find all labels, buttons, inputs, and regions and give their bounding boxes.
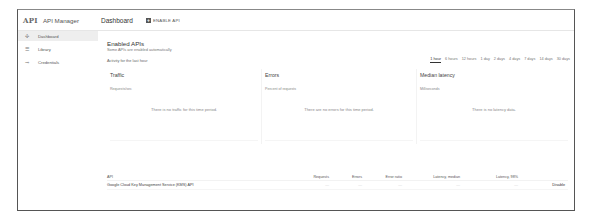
traffic-panel: Traffic Requests/sec There is no traffic… — [107, 69, 262, 144]
dashboard-icon: ✣ — [23, 33, 31, 39]
tab-7-days[interactable]: 7 days — [524, 57, 535, 63]
sidebar: ✣ Dashboard ☰ Library ⊸ Credentials — [18, 31, 98, 210]
column-api[interactable]: API — [107, 175, 292, 179]
main-content: Enabled APIs Some APIs are enabled autom… — [102, 31, 574, 210]
errors-value: — — [335, 183, 370, 187]
api-logo-icon: API — [23, 16, 38, 25]
section-title: Enabled APIs — [107, 40, 144, 47]
tab-6-hours[interactable]: 6 hours — [445, 57, 458, 63]
latency-98-value: — — [470, 183, 530, 187]
credentials-key-icon: ⊸ — [23, 59, 31, 65]
tab-1-hour[interactable]: 1 hour — [430, 57, 441, 63]
column-latency-median[interactable]: Latency, median — [410, 175, 470, 179]
panel-title: Errors — [265, 72, 279, 78]
tab-12-hours[interactable]: 12 hours — [462, 57, 477, 63]
tab-30-days[interactable]: 30 days — [557, 57, 570, 63]
sidebar-item-library[interactable]: ☰ Library — [18, 44, 98, 54]
disable-button[interactable]: Disable — [530, 183, 568, 187]
plus-icon: + — [146, 18, 151, 23]
page-title: Dashboard — [101, 17, 146, 24]
table-row: Google Cloud Key Management Service (KMS… — [107, 181, 568, 190]
browser-frame: API API Manager Dashboard + ENABLE API ✣… — [17, 9, 575, 211]
latency-panel: Median latency Milliseconds There is no … — [417, 69, 571, 144]
column-error-ratio[interactable]: Error ratio — [370, 175, 410, 179]
tab-14-days[interactable]: 14 days — [539, 57, 552, 63]
top-header: API API Manager Dashboard + ENABLE API — [18, 10, 574, 31]
panel-unit: Milliseconds — [420, 87, 440, 91]
panel-title: Median latency — [420, 72, 455, 78]
panel-unit: Percent of requests — [265, 87, 296, 91]
errors-panel: Errors Percent of requests There are no … — [262, 69, 417, 144]
enable-api-button[interactable]: + ENABLE API — [146, 18, 180, 23]
panel-empty-message: There is no latency data. — [417, 107, 571, 112]
column-requests[interactable]: Requests — [292, 175, 335, 179]
activity-label: Activity for the last hour — [107, 58, 147, 63]
panel-unit: Requests/sec — [110, 87, 132, 91]
sidebar-item-dashboard[interactable]: ✣ Dashboard — [18, 31, 98, 41]
panel-empty-message: There are no errors for this time period… — [262, 107, 416, 112]
app-name: API Manager — [43, 17, 79, 24]
enable-api-label: ENABLE API — [153, 18, 180, 23]
time-range-tabs: 1 hour 6 hours 12 hours 1 day 2 days 4 d… — [430, 57, 570, 63]
sidebar-item-credentials[interactable]: ⊸ Credentials — [18, 57, 98, 67]
sidebar-item-label: Library — [38, 47, 51, 52]
brand[interactable]: API API Manager — [18, 10, 98, 30]
sidebar-item-label: Credentials — [38, 60, 59, 65]
chart-panels: Traffic Requests/sec There is no traffic… — [107, 69, 571, 144]
chart-axis — [110, 140, 258, 141]
latency-median-value: — — [410, 183, 470, 187]
sidebar-item-label: Dashboard — [38, 34, 59, 39]
column-latency-98[interactable]: Latency, 98% — [470, 175, 530, 179]
panel-title: Traffic — [110, 72, 124, 78]
tab-1-day[interactable]: 1 day — [481, 57, 490, 63]
library-icon: ☰ — [23, 46, 31, 52]
tab-2-days[interactable]: 2 days — [494, 57, 505, 63]
panel-empty-message: There is no traffic for this time period… — [107, 107, 261, 112]
requests-value: — — [292, 183, 335, 187]
error-ratio-value: — — [370, 183, 410, 187]
chart-axis — [265, 140, 413, 141]
section-subtitle: Some APIs are enabled automatically — [107, 47, 172, 52]
tab-4-days[interactable]: 4 days — [509, 57, 520, 63]
column-errors[interactable]: Errors — [335, 175, 370, 179]
chart-axis — [420, 140, 568, 141]
api-name-link[interactable]: Google Cloud Key Management Service (KMS… — [107, 183, 292, 187]
apis-table: API Requests Errors Error ratio Latency,… — [107, 173, 568, 190]
table-header: API Requests Errors Error ratio Latency,… — [107, 173, 568, 181]
